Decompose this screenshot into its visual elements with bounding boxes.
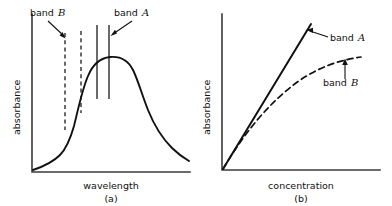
panel-b-caption: (b): [294, 193, 307, 204]
panel-a-band-b-label: band: [30, 7, 54, 18]
panel-b-axes: [222, 14, 380, 170]
panel-a-axes: [32, 14, 190, 172]
panel-a-band-b-annotation: band B: [30, 7, 66, 39]
panel-b-band-b-label: band: [323, 77, 347, 88]
panel-a-band-a-annotation: band A: [111, 7, 150, 36]
panel-a: band B band A absorbance wavelength (a): [11, 7, 190, 204]
panel-a-caption: (a): [104, 193, 117, 204]
panel-b-band-a-label-italic: A: [357, 32, 365, 43]
panel-b-band-a-label: band: [330, 32, 354, 43]
panel-a-band-b-markers: [65, 31, 81, 130]
figure-svg: band B band A absorbance wavelength (a): [0, 0, 392, 206]
panel-b-band-a-annotation: band A: [307, 28, 366, 43]
panel-b: band A band B absorbance concentration (…: [201, 14, 380, 204]
panel-a-band-a-label: band: [114, 7, 138, 18]
panel-a-band-a-label-italic: A: [141, 7, 149, 18]
panel-a-band-a-arrow-icon: [111, 30, 118, 36]
panel-b-ylabel: absorbance: [201, 79, 212, 135]
panel-a-ylabel: absorbance: [11, 79, 22, 135]
panel-a-band-b-label-italic: B: [57, 7, 65, 18]
panel-a-spectrum-curve: [33, 57, 189, 170]
panel-b-band-b-label-italic: B: [350, 77, 358, 88]
figure-container: band B band A absorbance wavelength (a): [0, 0, 392, 206]
panel-b-band-b-curve: [223, 57, 361, 169]
panel-b-band-b-annotation: band B: [323, 59, 358, 89]
panel-b-xlabel: concentration: [268, 180, 334, 191]
panel-a-xlabel: wavelength: [83, 180, 138, 191]
